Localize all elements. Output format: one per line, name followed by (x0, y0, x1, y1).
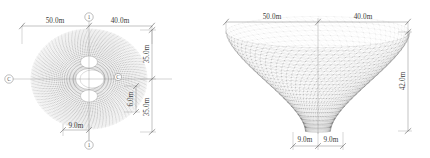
grid-bubble-label-top: 1 (88, 14, 91, 20)
elev-dim-bottom-right: 9.0m (324, 136, 339, 144)
grid-bubble-label-right: C (116, 74, 120, 80)
grid-bubble-label-left: C (7, 76, 11, 82)
plan-grid-bubble-right: C (114, 73, 121, 80)
grid-bubble-label-bottom: 1 (88, 142, 91, 148)
elev-dim-bottom-left: 9.0m (298, 136, 313, 144)
plan-dim-right-lower: 35.0m (143, 97, 151, 116)
drawing-sheet: 50.0m 40.0m 35.0m 35.0m 6.0m (0, 0, 430, 158)
plan-dim-bottom-left: 9.0m (69, 122, 84, 130)
plan-grid-bubble-left: C (5, 75, 13, 83)
plan-dim-right-upper: 35.0m (143, 44, 151, 63)
plan-view-group: 50.0m 40.0m 35.0m 35.0m 6.0m (5, 13, 172, 149)
plan-grid-bubble-bottom: 1 (85, 141, 93, 149)
plan-grid-bubble-top: 1 (85, 13, 93, 21)
plan-dim-top-left: 50.0m (46, 17, 65, 25)
plan-dim-top-right: 40.0m (111, 17, 130, 25)
plan-dim-right-inner: 6.0m (127, 91, 135, 106)
elevation-view-group: 50.0m 40.0m 42.0m 9.0m 9.0m (223, 13, 412, 150)
elev-dim-top-right: 40.0m (354, 13, 373, 21)
elev-dim-top-left: 50.0m (263, 13, 282, 21)
technical-drawing-canvas: 50.0m 40.0m 35.0m 35.0m 6.0m (0, 0, 430, 158)
elev-dim-right-height: 42.0m (399, 71, 407, 90)
